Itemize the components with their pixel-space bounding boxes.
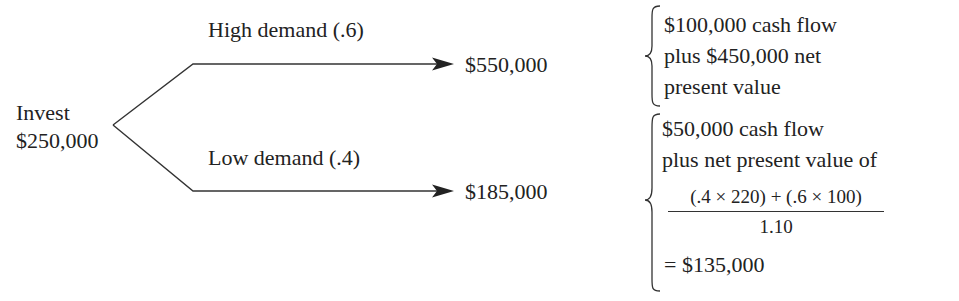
high-demand-explanation-line-3: present value [664,76,781,98]
low-demand-outcome: $185,000 [465,181,548,203]
low-demand-explanation-line-1: $50,000 cash flow [662,118,824,140]
root-label-amount: $250,000 [16,130,99,152]
npv-fraction: (.4 × 220) + (.6 × 100) 1.10 [668,186,884,238]
low-demand-brace-icon [645,114,660,291]
npv-fraction-denominator: 1.10 [668,216,884,238]
high-demand-branch-line [113,64,440,125]
npv-fraction-numerator: (.4 × 220) + (.6 × 100) [668,186,884,208]
root-label-invest: Invest [16,102,70,124]
low-demand-label: Low demand (.4) [208,147,360,169]
high-demand-brace-icon [645,6,660,106]
low-demand-npv-result: = $135,000 [664,254,764,276]
high-demand-explanation-line-1: $100,000 cash flow [664,14,837,36]
high-demand-explanation-line-2: plus $450,000 net [664,45,821,67]
high-demand-outcome: $550,000 [465,54,548,76]
low-demand-explanation-line-2: plus net present value of [662,149,877,171]
npv-fraction-bar [668,211,884,212]
high-demand-label: High demand (.6) [208,19,364,41]
